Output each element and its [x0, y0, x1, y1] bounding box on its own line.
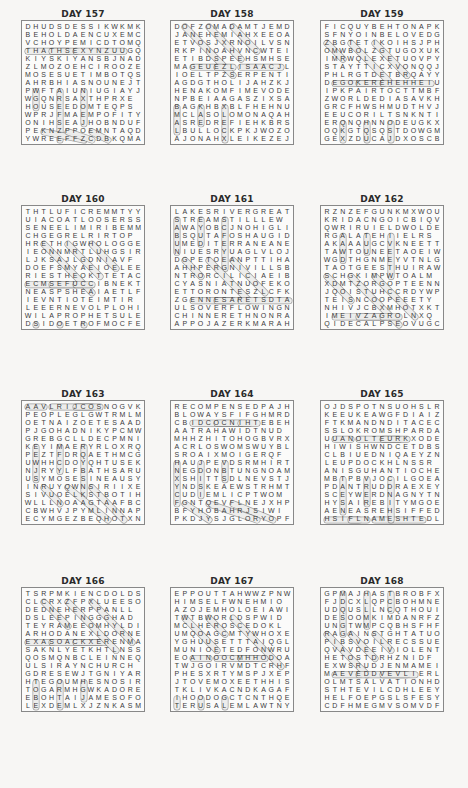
- grid-letter: R: [212, 208, 220, 216]
- grid-letter: E: [134, 311, 142, 319]
- grid-letter: V: [425, 102, 433, 110]
- grid-letter: O: [212, 614, 220, 622]
- grid-letter: H: [362, 118, 370, 126]
- grid-letter: B: [331, 474, 339, 482]
- grid-letter: R: [417, 264, 425, 272]
- grid-letter: N: [331, 622, 339, 630]
- grid-letter: L: [244, 701, 252, 709]
- grid-letter: K: [339, 126, 347, 134]
- grid-letter: A: [347, 240, 355, 248]
- grid-letter: R: [275, 459, 283, 467]
- puzzle-title: DAY 163: [15, 389, 151, 399]
- grid-letter: G: [55, 514, 63, 522]
- grid-letter: I: [63, 403, 71, 411]
- grid-letter: N: [417, 677, 425, 685]
- grid-letter: E: [244, 118, 252, 126]
- grid-letter: J: [260, 498, 268, 506]
- grid-letter: R: [197, 427, 205, 435]
- grid-letter: N: [402, 653, 410, 661]
- grid-letter: B: [79, 466, 87, 474]
- grid-letter: T: [212, 590, 220, 598]
- puzzle-title: DAY 167: [164, 576, 300, 586]
- grid-letter: W: [220, 443, 228, 451]
- grid-letter: U: [378, 208, 386, 216]
- grid-letter: E: [362, 693, 370, 701]
- grid-letter: N: [339, 208, 347, 216]
- grid-letter: N: [189, 646, 197, 654]
- grid-letter: Y: [55, 39, 63, 47]
- grid-letter: Y: [283, 701, 291, 709]
- grid-letter: A: [275, 319, 283, 327]
- grid-letter: N: [189, 498, 197, 506]
- grid-letter: O: [79, 419, 87, 427]
- grid-letter: M: [63, 110, 71, 118]
- grid-letter: I: [417, 216, 425, 224]
- grid-letter: A: [339, 435, 347, 443]
- grid-letter: P: [331, 86, 339, 94]
- puzzle-title: DAY 159: [314, 9, 450, 19]
- grid-letter: O: [204, 23, 212, 31]
- grid-letter: F: [347, 102, 355, 110]
- grid-letter: A: [267, 240, 275, 248]
- grid-letter: [283, 216, 291, 224]
- grid-letter: L: [433, 514, 441, 522]
- grid-letter: D: [204, 693, 212, 701]
- grid-letter: T: [283, 482, 291, 490]
- grid-letter: O: [370, 295, 378, 303]
- grid-letter: E: [252, 606, 260, 614]
- grid-letter: G: [220, 264, 228, 272]
- grid-letter: O: [220, 677, 228, 685]
- grid-letter: O: [378, 474, 386, 482]
- grid-letter: I: [323, 86, 331, 94]
- grid-letter: K: [134, 403, 142, 411]
- grid-letter: S: [410, 638, 418, 646]
- grid-letter: T: [323, 264, 331, 272]
- grid-letter: E: [48, 224, 56, 232]
- grid-letter: S: [323, 427, 331, 435]
- grid-letter: U: [111, 47, 119, 55]
- grid-letter: D: [283, 232, 291, 240]
- grid-letter: S: [55, 23, 63, 31]
- grid-letter: L: [354, 514, 362, 522]
- grid-letter: H: [402, 79, 410, 87]
- grid-letter: F: [181, 506, 189, 514]
- grid-letter: C: [40, 598, 48, 606]
- grid-letter: B: [370, 303, 378, 311]
- grid-letter: O: [212, 47, 220, 55]
- grid-letter: H: [244, 653, 252, 661]
- grid-letter: N: [370, 216, 378, 224]
- grid-letter: N: [111, 653, 119, 661]
- grid-letter: D: [283, 411, 291, 419]
- grid-letter: G: [331, 232, 339, 240]
- grid-letter: T: [220, 646, 228, 654]
- grid-letter: E: [347, 506, 355, 514]
- grid-letter: B: [339, 638, 347, 646]
- grid-letter: H: [267, 55, 275, 63]
- grid-letter: O: [181, 653, 189, 661]
- grid-letter: Y: [40, 55, 48, 63]
- grid-letter: O: [425, 498, 433, 506]
- grid-letter: E: [386, 256, 394, 264]
- grid-letter: O: [48, 31, 56, 39]
- grid-letter: O: [63, 63, 71, 71]
- grid-letter: A: [252, 79, 260, 87]
- grid-letter: H: [386, 459, 394, 467]
- grid-letter: P: [173, 669, 181, 677]
- grid-letter: E: [63, 118, 71, 126]
- grid-letter: [134, 256, 142, 264]
- grid-letter: X: [252, 31, 260, 39]
- grid-letter: S: [134, 71, 142, 79]
- puzzle-day-159: DAY 159FICQUYBEHTONAPKSFNYOINBELOVEDGZBG…: [314, 9, 450, 149]
- grid-letter: L: [347, 232, 355, 240]
- grid-letter: T: [55, 693, 63, 701]
- grid-letter: S: [32, 614, 40, 622]
- grid-letter: I: [212, 279, 220, 287]
- grid-letter: T: [267, 47, 275, 55]
- grid-letter: F: [134, 287, 142, 295]
- grid-letter: R: [275, 411, 283, 419]
- grid-letter: A: [134, 638, 142, 646]
- grid-letter: L: [118, 264, 126, 272]
- grid-letter: I: [244, 134, 252, 142]
- grid-letter: F: [323, 598, 331, 606]
- grid-letter: G: [71, 411, 79, 419]
